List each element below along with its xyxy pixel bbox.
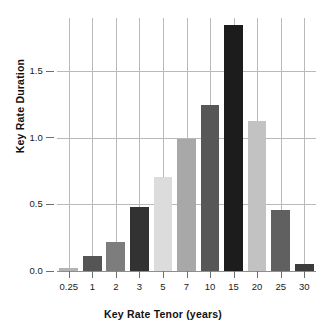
x-tick-label: 20 — [252, 282, 263, 292]
y-tick-mark — [46, 271, 54, 272]
y-tick-label: 0.0 — [15, 266, 43, 276]
gridline-x-0.25 — [69, 18, 70, 271]
x-tick-mark — [69, 271, 70, 278]
bar-3y — [130, 207, 149, 271]
x-tick-mark — [257, 271, 258, 278]
plot-area — [57, 18, 316, 271]
bar-1y — [83, 256, 102, 271]
y-tick-mark — [46, 71, 54, 72]
x-tick-mark — [281, 271, 282, 278]
x-tick-mark — [187, 271, 188, 278]
x-tick-mark — [304, 271, 305, 278]
bar-10y — [201, 105, 220, 271]
bar-2y — [106, 242, 125, 271]
y-tick-label: 0.5 — [15, 199, 43, 209]
x-tick-mark — [92, 271, 93, 278]
x-tick-label: 3 — [137, 282, 142, 292]
gridline-x-2 — [116, 18, 117, 271]
bar-25y — [271, 210, 290, 271]
y-axis-title: Key Rate Duration — [14, 26, 26, 186]
bar-15y — [224, 25, 243, 271]
x-tick-label: 30 — [299, 282, 310, 292]
x-tick-mark — [210, 271, 211, 278]
x-tick-label: 5 — [160, 282, 165, 292]
gridline-x-30 — [304, 18, 305, 271]
x-tick-mark — [234, 271, 235, 278]
gridline-x-1 — [92, 18, 93, 271]
x-tick-label: 1 — [90, 282, 95, 292]
bar-20y — [248, 121, 267, 272]
x-tick-mark — [116, 271, 117, 278]
y-tick-label: 1.0 — [15, 133, 43, 143]
y-tick-mark — [46, 204, 54, 205]
x-tick-label: 25 — [275, 282, 286, 292]
x-tick-label: 15 — [228, 282, 239, 292]
y-tick-mark — [46, 137, 54, 138]
key-rate-duration-bar-chart: Key Rate Duration 0.00.51.01.5 0.2512357… — [0, 0, 326, 332]
x-tick-label: 7 — [184, 282, 189, 292]
y-tick-label: 1.5 — [15, 66, 43, 76]
x-tick-mark — [163, 271, 164, 278]
x-tick-label: 0.25 — [60, 282, 79, 292]
bar-5y — [154, 177, 173, 272]
bar-30y — [295, 264, 314, 271]
x-tick-label: 2 — [113, 282, 118, 292]
bar-7y — [177, 139, 196, 271]
x-axis-title: Key Rate Tenor (years) — [0, 308, 326, 320]
x-tick-mark — [139, 271, 140, 278]
x-tick-label: 10 — [205, 282, 216, 292]
